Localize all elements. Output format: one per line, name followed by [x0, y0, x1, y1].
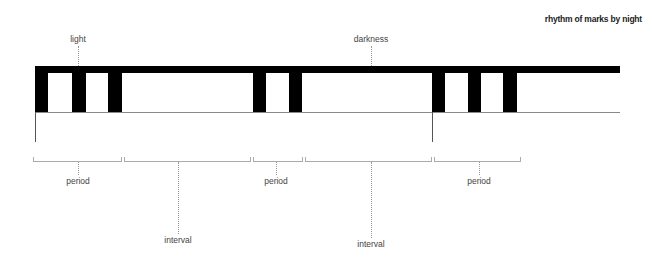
- bracket-leader-line: [178, 162, 179, 234]
- bracket-tick: [302, 157, 303, 162]
- bracket-line: [434, 161, 520, 162]
- bracket-tick: [121, 157, 122, 162]
- period-label: period: [66, 176, 90, 186]
- light-mark: [72, 66, 86, 112]
- light-mark: [35, 66, 48, 112]
- light-mark: [503, 66, 517, 112]
- bracket-tick: [33, 157, 34, 162]
- bracket-leader-line: [78, 162, 79, 175]
- period-label: period: [467, 176, 491, 186]
- interval-label: interval: [164, 235, 191, 245]
- baseline: [35, 112, 620, 113]
- cycle-marker-line: [35, 112, 36, 142]
- darkness-leader-line: [371, 46, 372, 66]
- diagram-title: rhythm of marks by night: [545, 14, 642, 24]
- bracket-tick: [250, 157, 251, 162]
- interval-label: interval: [357, 239, 384, 249]
- bracket-tick: [253, 157, 254, 162]
- bracket-leader-line: [479, 162, 480, 175]
- bracket-tick: [124, 157, 125, 162]
- light-leader-line: [78, 46, 79, 66]
- top-bar: [35, 66, 620, 73]
- light-mark: [468, 66, 481, 112]
- light-mark: [253, 66, 266, 112]
- bracket-leader-line: [371, 162, 372, 238]
- bracket-line: [33, 161, 121, 162]
- period-label: period: [264, 176, 288, 186]
- light-mark: [289, 66, 302, 112]
- bracket-leader-line: [276, 162, 277, 175]
- bracket-line: [253, 161, 302, 162]
- darkness-label: darkness: [354, 34, 389, 44]
- bracket-line: [305, 161, 431, 162]
- bracket-tick: [520, 157, 521, 162]
- bracket-tick: [434, 157, 435, 162]
- bracket-line: [124, 161, 250, 162]
- bracket-tick: [305, 157, 306, 162]
- light-mark: [108, 66, 122, 112]
- light-label: light: [70, 34, 86, 44]
- bracket-tick: [431, 157, 432, 162]
- light-mark: [432, 66, 445, 112]
- cycle-marker-line: [432, 112, 433, 142]
